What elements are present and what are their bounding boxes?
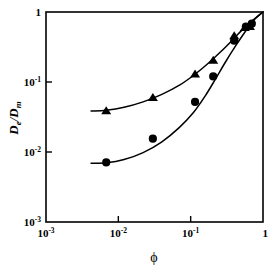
y-title-denominator: D [6,108,21,119]
x-tick-label: 10-2 [110,226,127,239]
x-axis-tick-labels: 10-310-210-11 [37,226,268,239]
y-tick-label: 10-2 [24,145,41,158]
x-tick-label: 10-1 [182,226,199,239]
data-point-circle [230,37,238,45]
tick-marks [46,82,191,222]
fit-curve-upper-series [91,12,263,111]
data-point-circle [191,98,199,106]
x-axis-title: ϕ [150,250,157,265]
data-point-circle [248,20,256,28]
figure-container: 10-310-210-11 110-110-210-3 De/Dm ϕ [0,0,277,273]
x-tick-label: 1 [263,227,269,239]
y-axis-tick-labels: 110-110-210-3 [24,6,41,228]
plot-frame [46,12,263,222]
data-point-triangle [208,56,218,64]
y-tick-label: 1 [36,6,42,18]
y-title-numerator: D [6,125,21,136]
y-axis-title-text: De/Dm [6,101,23,135]
x-tick-label: 10-3 [37,226,54,239]
log-log-scatter-plot: 10-310-210-11 110-110-210-3 De/Dm ϕ [0,0,277,273]
data-point-circle [209,72,217,80]
fit-curves [91,12,263,163]
y-axis-title: De/Dm [6,101,23,135]
data-markers [101,20,256,167]
data-point-circle [102,158,110,166]
data-point-circle [149,135,157,143]
y-tick-label: 10-1 [24,75,41,88]
y-title-denominator-sub: m [13,101,23,108]
